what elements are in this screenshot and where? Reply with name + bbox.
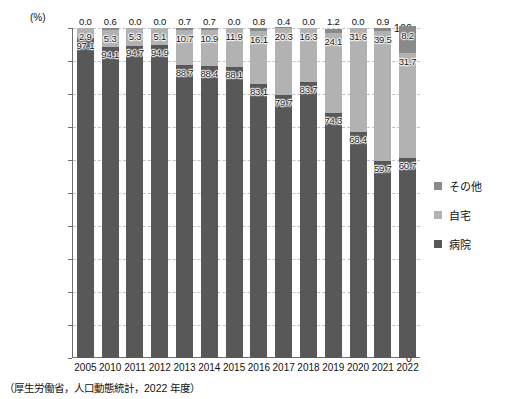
bar-segment-hospital[interactable] [300,82,317,358]
bar-group[interactable] [350,28,367,358]
bar-segment-hospital[interactable] [226,67,243,358]
bar-segment-hospital[interactable] [250,84,267,358]
bar-segment-other[interactable] [102,28,119,30]
x-tick-label: 2014 [198,362,220,373]
bar-segment-home[interactable] [399,53,416,158]
legend-swatch-icon [434,240,442,248]
legend-item-hospital[interactable]: 病院 [434,236,510,252]
legend-label: その他 [449,178,482,194]
bar-segment-hospital[interactable] [201,66,218,358]
legend-item-other[interactable]: その他 [434,178,510,194]
value-label-hospital: 94.1 [101,49,119,60]
y-tick-mark [68,160,72,161]
x-tick-label: 2018 [297,362,319,373]
value-label-hospital: 83.7 [300,84,318,95]
value-label-hospital: 88.7 [176,67,194,78]
bar-group[interactable] [126,28,143,358]
y-tick-mark [68,358,72,359]
value-label-other: 0.6 [104,16,117,27]
chart-container: (%) 0102030405060708090100 97.12.90.094.… [0,0,516,399]
value-label-hospital: 88.4 [200,68,218,79]
bar-segment-home[interactable] [374,31,391,161]
y-tick-mark [68,325,72,326]
bar-segment-other[interactable] [176,28,193,30]
x-tick-label: 2015 [223,362,245,373]
value-label-hospital: 74.3 [324,115,342,126]
chart-legend: その他自宅病院 [434,178,510,265]
bar-segment-hospital[interactable] [275,95,292,358]
y-tick-mark [68,61,72,62]
value-label-home: 5.3 [104,33,117,44]
value-label-home: 10.9 [200,33,218,44]
value-label-hospital: 94.7 [126,47,144,58]
x-tick-label: 2011 [124,362,146,373]
bar-segment-hospital[interactable] [399,158,416,358]
value-label-home: 31.7 [399,56,417,67]
value-label-other: 0.0 [79,16,92,27]
x-tick-label: 2005 [74,362,96,373]
bar-segment-hospital[interactable] [374,161,391,358]
legend-item-home[interactable]: 自宅 [434,207,510,223]
y-tick-mark [68,226,72,227]
bar-segment-hospital[interactable] [102,47,119,358]
bar-segment-hospital[interactable] [325,113,342,358]
value-label-hospital: 79.7 [275,97,293,108]
bar-segment-other[interactable] [250,28,267,31]
value-label-home: 24.1 [324,36,342,47]
bar-segment-home[interactable] [350,28,367,132]
value-label-home: 11.9 [226,31,243,42]
value-label-hospital: 68.4 [349,134,367,145]
x-tick-label: 2016 [248,362,270,373]
value-label-other: 8.2 [401,30,414,41]
bar-group[interactable] [151,28,168,358]
value-label-hospital: 59.7 [374,163,392,174]
bar-segment-hospital[interactable] [350,132,367,358]
value-label-other: 0.0 [228,16,241,27]
bar-segment-other[interactable] [325,29,342,33]
value-label-other: 0.0 [153,16,166,27]
value-label-other: 0.7 [178,16,191,27]
value-label-other: 0.4 [277,16,290,27]
bar-group[interactable] [77,28,94,358]
bar-group[interactable] [300,28,317,358]
legend-swatch-icon [434,211,442,219]
source-note: （厚生労働省，人口動態統計，2022 年度） [4,380,200,395]
x-tick-label: 2019 [322,362,344,373]
x-tick-label: 2010 [99,362,121,373]
value-label-hospital: 60.7 [399,160,417,171]
x-tick-label: 2021 [372,362,394,373]
value-label-other: 0.7 [203,16,216,27]
bar-segment-hospital[interactable] [176,65,193,358]
y-tick-mark [68,94,72,95]
x-tick-label: 2013 [173,362,195,373]
value-label-other: 0.9 [377,16,390,27]
plot-area: 0102030405060708090100 97.12.90.094.15.3… [72,28,420,358]
value-label-home: 2.9 [79,31,92,42]
bar-segment-hospital[interactable] [151,45,168,358]
x-axis-tick-labels: 2005201020112012201320142015201620172018… [73,362,420,378]
bar-segment-hospital[interactable] [77,38,94,358]
y-tick-mark [68,127,72,128]
x-tick-label: 2017 [273,362,295,373]
bar-group[interactable] [275,28,292,358]
bar-group[interactable] [374,28,391,358]
bar-group[interactable] [325,28,342,358]
value-label-other: 0.0 [302,16,315,27]
y-tick-mark [68,28,72,29]
legend-label: 自宅 [449,207,471,223]
value-label-home: 16.3 [300,31,318,42]
bar-segment-hospital[interactable] [126,46,143,359]
bar-segment-other[interactable] [201,28,218,30]
y-tick-mark [68,259,72,260]
bar-group[interactable] [399,28,416,358]
y-tick-mark [68,193,72,194]
bar-group[interactable] [102,28,119,358]
value-label-home: 20.3 [275,31,293,42]
x-tick-label: 2022 [396,362,418,373]
value-label-hospital: 83.1 [250,86,268,97]
value-label-home: 31.6 [349,31,367,42]
value-label-other: 0.0 [129,16,142,27]
legend-label: 病院 [449,236,471,252]
bar-segment-other[interactable] [374,28,391,31]
bar-group[interactable] [250,28,267,358]
